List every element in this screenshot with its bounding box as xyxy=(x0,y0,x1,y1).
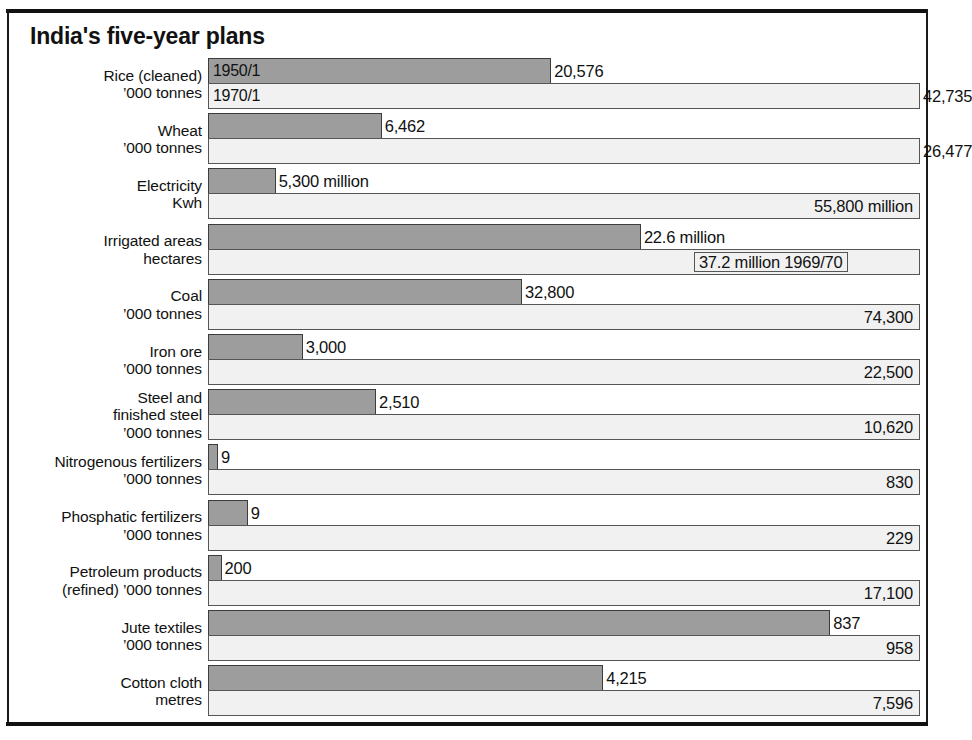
bar-1950: 2,510 xyxy=(208,389,376,415)
bar-value-1950: 6,462 xyxy=(385,117,425,135)
bar-value-1950: 22.6 million xyxy=(644,228,725,246)
bar-value-1970: 17,100 xyxy=(864,584,913,602)
chart-row: Iron ore’000 tonnes3,00022,500 xyxy=(0,334,934,388)
row-category-label: Irrigated areashectares xyxy=(20,232,202,267)
row-category-label: Nitrogenous fertilizers’000 tonnes xyxy=(8,453,202,488)
bar-1970: 7,596 xyxy=(208,690,920,716)
bar-1970: 74,300 xyxy=(208,304,920,330)
bar-value-1950: 837 xyxy=(833,614,860,632)
chart-row: Wheat’000 tonnes6,46226,477 xyxy=(0,113,934,167)
row-category-label: Cotton clothmetres xyxy=(20,674,202,709)
bar-1950: 6,462 xyxy=(208,113,382,139)
bar-value-1970: 42,735 xyxy=(923,87,972,105)
bar-value-1970: 830 xyxy=(886,473,913,491)
bar-1950: 32,800 xyxy=(208,279,522,305)
chart-row: Jute textiles’000 tonnes837958 xyxy=(0,610,934,664)
row-bar-track: 9830 xyxy=(208,444,920,495)
row-bar-track: 5,300 million55,800 million xyxy=(208,168,920,219)
bottom-rule xyxy=(6,722,928,726)
row-label-line-2: finished steel xyxy=(20,406,202,424)
chart-row: Petroleum products(refined) ’000 tonnes2… xyxy=(0,555,934,609)
row-label-line-1: Irrigated areas xyxy=(20,232,202,250)
row-bar-track: 6,46226,477 xyxy=(208,113,920,164)
bar-1970: 958 xyxy=(208,635,920,661)
bar-value-1950: 4,215 xyxy=(606,669,646,687)
bar-1970: 26,477 xyxy=(208,138,920,164)
row-label-line-2: metres xyxy=(20,691,202,709)
row-bar-track: 4,2157,596 xyxy=(208,665,920,716)
row-label-line-1: Coal xyxy=(20,287,202,305)
row-category-label: Phosphatic fertilizers’000 tonnes xyxy=(8,508,202,543)
row-label-line-1: Wheat xyxy=(20,122,202,140)
row-label-line-2: ’000 tonnes xyxy=(8,526,202,544)
row-label-line-1: Electricity xyxy=(20,177,202,195)
bar-value-1970: 55,800 million xyxy=(814,197,913,215)
bar-1970: 17,100 xyxy=(208,580,920,606)
row-label-line-2: (refined) ’000 tonnes xyxy=(8,581,202,599)
top-rule xyxy=(6,9,928,13)
row-label-line-2: ’000 tonnes xyxy=(20,305,202,323)
row-bar-track: 9229 xyxy=(208,500,920,551)
row-bar-track: 22.6 million37.2 million 1969/70 xyxy=(208,224,920,275)
bar-value-1970: 74,300 xyxy=(864,308,913,326)
row-label-line-2: hectares xyxy=(20,250,202,268)
bar-value-1950: 200 xyxy=(225,559,252,577)
row-label-line-2: ’000 tonnes xyxy=(20,84,202,102)
series-label-1950: 1950/1 xyxy=(213,62,260,80)
row-label-line-1: Iron ore xyxy=(20,343,202,361)
row-label-line-1: Steel and xyxy=(20,389,202,407)
row-label-line-1: Phosphatic fertilizers xyxy=(8,508,202,526)
row-label-line-1: Jute textiles xyxy=(20,619,202,637)
bar-1970: 229 xyxy=(208,525,920,551)
chart-row: Irrigated areashectares22.6 million37.2 … xyxy=(0,224,934,278)
bar-value-1970: 22,500 xyxy=(864,363,913,381)
bar-value-1970: 229 xyxy=(886,529,913,547)
row-category-label: Jute textiles’000 tonnes xyxy=(20,619,202,654)
row-label-line-1: Nitrogenous fertilizers xyxy=(8,453,202,471)
bar-value-1970: 7,596 xyxy=(873,694,913,712)
bar-1970: 22,500 xyxy=(208,359,920,385)
bar-value-1970: 10,620 xyxy=(864,418,913,436)
row-bar-track: 1950/120,5761970/142,735 xyxy=(208,58,920,109)
row-label-line-1: Rice (cleaned) xyxy=(20,67,202,85)
row-category-label: Wheat’000 tonnes xyxy=(20,122,202,157)
row-label-line-3: ’000 tonnes xyxy=(20,424,202,442)
chart-row: Nitrogenous fertilizers’000 tonnes9830 xyxy=(0,444,934,498)
bar-1950: 3,000 xyxy=(208,334,303,360)
bar-1950: 5,300 million xyxy=(208,168,276,194)
row-bar-track: 3,00022,500 xyxy=(208,334,920,385)
row-category-label: Rice (cleaned)’000 tonnes xyxy=(20,67,202,102)
bar-1970: 1970/142,735 xyxy=(208,83,920,109)
row-label-line-2: ’000 tonnes xyxy=(20,636,202,654)
row-category-label: ElectricityKwh xyxy=(20,177,202,212)
row-label-line-2: ’000 tonnes xyxy=(20,139,202,157)
bar-1950: 9 xyxy=(208,500,248,526)
bar-value-1950: 3,000 xyxy=(306,338,346,356)
bar-value-1970: 37.2 million 1969/70 xyxy=(694,252,848,272)
bar-1950: 22.6 million xyxy=(208,224,641,250)
row-bar-track: 837958 xyxy=(208,610,920,661)
row-category-label: Petroleum products(refined) ’000 tonnes xyxy=(8,563,202,598)
chart-row: Cotton clothmetres4,2157,596 xyxy=(0,665,934,719)
bar-value-1950: 9 xyxy=(251,504,260,522)
bar-1950: 837 xyxy=(208,610,830,636)
row-bar-track: 20017,100 xyxy=(208,555,920,606)
bar-1950: 200 xyxy=(208,555,222,581)
series-label-1970: 1970/1 xyxy=(213,87,260,105)
bar-1950: 4,215 xyxy=(208,665,603,691)
bar-1970: 10,620 xyxy=(208,414,920,440)
bar-value-1950: 32,800 xyxy=(525,283,574,301)
chart-row: Steel andfinished steel’000 tonnes2,5101… xyxy=(0,389,934,443)
row-label-line-1: Cotton cloth xyxy=(20,674,202,692)
row-category-label: Coal’000 tonnes xyxy=(20,287,202,322)
row-category-label: Steel andfinished steel’000 tonnes xyxy=(20,389,202,442)
chart-row: Coal’000 tonnes32,80074,300 xyxy=(0,279,934,333)
page-title: India's five-year plans xyxy=(30,23,265,50)
bar-1950: 1950/120,576 xyxy=(208,58,551,84)
bar-1970: 830 xyxy=(208,469,920,495)
row-bar-track: 32,80074,300 xyxy=(208,279,920,330)
bar-1970: 55,800 million xyxy=(208,193,920,219)
row-label-line-2: Kwh xyxy=(20,194,202,212)
row-label-line-1: Petroleum products xyxy=(8,563,202,581)
